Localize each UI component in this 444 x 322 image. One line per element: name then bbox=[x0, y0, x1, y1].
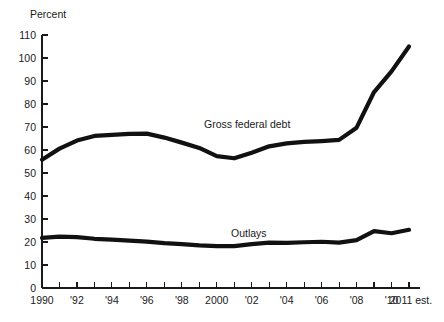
x-axis-tick-label: '98 bbox=[175, 294, 189, 306]
x-axis-tick-label: '08 bbox=[350, 294, 364, 306]
y-axis-tick-label: 100 bbox=[18, 52, 36, 64]
chart-container: Percent 0102030405060708090100110 1990'9… bbox=[0, 0, 444, 322]
y-axis-tick-label: 50 bbox=[24, 167, 36, 179]
data-series-line-gross-federal-debt bbox=[42, 47, 409, 160]
x-axis-tick-labels: 1990'92'94'96'982000'02'04'06'08'102011 … bbox=[30, 294, 432, 306]
y-axis-tick-label: 0 bbox=[30, 282, 36, 294]
x-axis-tick-label: '92 bbox=[70, 294, 84, 306]
x-axis-tick-label: '06 bbox=[315, 294, 329, 306]
y-axis-tick-label: 90 bbox=[24, 75, 36, 87]
y-axis-unit-label-group: Percent bbox=[30, 8, 66, 20]
x-axis-tick-label: '02 bbox=[245, 294, 259, 306]
y-axis-tick-label: 40 bbox=[24, 190, 36, 202]
line-chart-svg: Percent 0102030405060708090100110 1990'9… bbox=[0, 0, 444, 322]
y-axis-tick-label: 110 bbox=[19, 29, 36, 41]
data-series-group bbox=[42, 47, 409, 247]
x-axis-tick-label: 2000 bbox=[205, 294, 229, 306]
x-axis-tick-label: 2011 est. bbox=[390, 294, 432, 306]
data-series-line-outlays bbox=[42, 230, 409, 246]
series-label-outlays: Outlays bbox=[231, 227, 267, 239]
y-axis-tick-labels: 0102030405060708090100110 bbox=[18, 29, 36, 294]
x-axis-tick-label: '94 bbox=[105, 294, 119, 306]
y-axis-tick-label: 30 bbox=[24, 213, 36, 225]
y-axis-tick-label: 20 bbox=[24, 236, 36, 248]
y-axis-unit-label: Percent bbox=[30, 8, 66, 20]
x-axis-tick-label: 1990 bbox=[30, 294, 54, 306]
series-label-gross-federal-debt: Gross federal debt bbox=[204, 118, 290, 130]
y-axis-tick-label: 60 bbox=[24, 144, 36, 156]
x-axis-tick-label: '04 bbox=[280, 294, 294, 306]
y-axis-tick-label: 70 bbox=[24, 121, 36, 133]
x-axis-tick-marks bbox=[42, 282, 409, 288]
y-axis-tick-label: 10 bbox=[24, 259, 36, 271]
y-axis-tick-label: 80 bbox=[24, 98, 36, 110]
x-axis-tick-label: '96 bbox=[140, 294, 154, 306]
